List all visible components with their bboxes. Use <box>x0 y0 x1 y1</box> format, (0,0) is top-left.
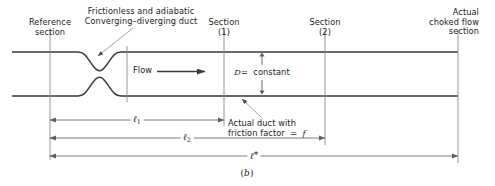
dimension-label-lstar: ℓ* <box>247 150 260 161</box>
figure-converging-diverging-duct: Reference section Frictionless and adiab… <box>0 0 495 186</box>
leader-actual-duct <box>242 99 262 118</box>
label-reference-section: Reference section <box>29 18 71 37</box>
label-diameter-symbol: D <box>234 67 241 77</box>
label-duct-annotation-line2: Converging–diverging duct <box>85 17 198 27</box>
label-diameter-value: = constant <box>241 67 290 77</box>
dimension-label-l2: ℓ2 <box>181 132 194 144</box>
label-flow: Flow <box>133 66 152 76</box>
label-section-1: Section (1) <box>208 18 239 37</box>
dimension-label-l1: ℓ1 <box>131 114 144 126</box>
duct-bottom-wall <box>12 77 458 96</box>
label-diameter-constant: D= constant <box>234 68 289 78</box>
label-actual-choked-flow-section: Actual choked flow section <box>429 8 479 37</box>
figure-caption: (b) <box>241 168 254 178</box>
label-section-2: Section (2) <box>309 18 340 37</box>
label-actual-duct-line2: friction factor = f <box>228 129 306 139</box>
